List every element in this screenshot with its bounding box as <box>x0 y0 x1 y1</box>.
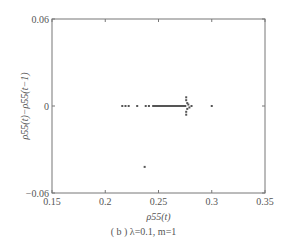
x-tick-label: 0.2 <box>99 196 112 207</box>
data-point <box>186 108 188 110</box>
y-tick-label: 0.06 <box>32 14 50 25</box>
data-point <box>188 106 190 108</box>
y-axis-label: ρ55(t)−ρ55(t−1) <box>19 72 31 141</box>
data-point <box>185 96 187 98</box>
figure-caption: ( b ) λ=0.1, m=1 <box>0 226 287 237</box>
data-point <box>124 105 126 107</box>
data-point <box>144 166 146 168</box>
data-point <box>148 105 150 107</box>
data-point <box>121 105 123 107</box>
y-tick-label: −0.06 <box>26 188 49 199</box>
data-point <box>185 111 187 113</box>
x-tick-label: 0.35 <box>256 196 274 207</box>
x-tick-label: 0.3 <box>206 196 219 207</box>
x-axis-label: ρ55(t) <box>145 211 171 223</box>
data-point <box>185 99 187 101</box>
data-point <box>128 105 130 107</box>
data-point <box>211 105 213 107</box>
data-points <box>121 96 212 168</box>
data-point <box>136 105 138 107</box>
data-point <box>187 104 189 106</box>
scatter-chart: 0.150.20.250.30.350.060−0.06ρ55(t)ρ55(t)… <box>0 0 287 248</box>
data-point <box>185 114 187 116</box>
y-tick-label: 0 <box>44 101 49 112</box>
data-point <box>145 105 147 107</box>
x-tick-label: 0.25 <box>150 196 168 207</box>
axes: 0.150.20.250.30.350.060−0.06ρ55(t)ρ55(t)… <box>19 14 274 224</box>
data-point <box>191 105 193 107</box>
